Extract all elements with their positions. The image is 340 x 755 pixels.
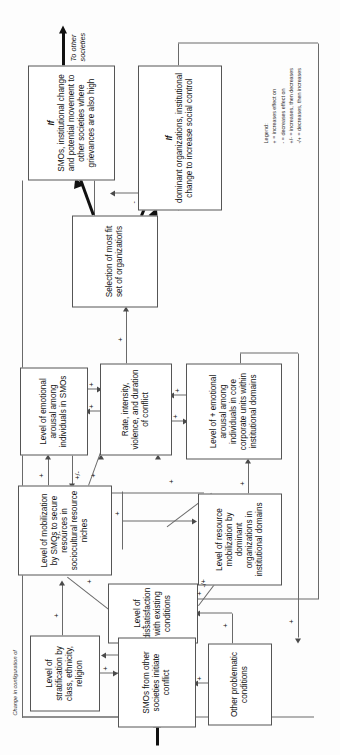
node-label: Level of stratification by class, ethnic… [45,639,85,707]
edge-mobilization-emosmos [48,455,49,485]
sign-plus-minus: +/- [74,471,81,479]
sign-plus: + [102,666,109,670]
change-in-configuration-label: Change in configuration of [12,650,18,715]
node-emotional-arousal-smos[interactable]: Level of emotional arousal among individ… [20,367,88,455]
node-label: SMOs from other societies initiate confl… [142,641,172,723]
node-label: Level of mobilization by SMOs to secure … [40,489,90,571]
edge-dominant-feedback-h1 [178,43,179,65]
node-stratification[interactable]: Level of stratification by class, ethnic… [30,635,100,711]
sign-minus: - [130,201,137,203]
legend-entry: + = increases effect on [270,67,278,143]
node-emotional-arousal-core-units[interactable]: Level of + emotional arousal among indiv… [186,363,282,459]
node-smos-from-other-societies[interactable]: SMOs from other societies initiate confl… [118,637,196,727]
sign-plus: + [172,414,179,418]
edge-otherproblems-dissatisfaction-v [198,612,232,613]
figure-page: + + + + + + -/+ +/- [0,0,340,755]
edge-conflict-selection [126,307,127,363]
edge-dominant-feedback-v [178,42,318,43]
node-prefix: If [47,120,56,125]
sign-plus: + [288,619,295,623]
node-dominant-organizations[interactable]: If dominant organizations, institutional… [138,65,222,210]
node-label: Level of dissatisfaction with existing c… [133,587,173,639]
to-other-societies-label: To other societies [70,15,88,61]
arrowhead-thick [59,25,67,33]
to-other-societies-arrow [62,31,65,65]
node-label: dominant organizations, institutional ch… [175,69,195,206]
node-label: SMOs, institutional change and potential… [57,69,97,176]
config-text: Change in configuration of [12,650,18,715]
node-selection-of-most-fit[interactable]: Selection of most fit set of organizatio… [72,215,158,307]
sign-plus: + [88,382,95,386]
outflow-text: To other societies [69,32,87,61]
sign-plus: + [88,404,95,408]
edge-otherproblems-dissatisfaction-h [232,613,233,643]
sign-plus: + [38,473,45,477]
arrowhead [59,580,65,585]
legend-entry: +/- = increases, then decreases [287,67,295,143]
node-dissatisfaction[interactable]: Level of dissatisfaction with existing c… [108,583,198,643]
sign-plus: + [196,591,203,595]
node-resource-mobilization-dominant[interactable]: Level of resource mobilization by domina… [198,493,282,585]
diagram-board: + + + + + + -/+ +/- [0,0,340,755]
sign-plus: + [168,479,175,483]
sign-plus: + [53,613,60,617]
legend-title: Legend: [262,67,270,143]
edge-emocore-conflict [172,394,186,395]
edge-resourcemob-emocore [248,459,249,493]
sign-minus: - [112,230,119,232]
arrowhead [192,518,197,524]
sign-plus: + [196,676,203,680]
arrowhead [110,190,115,196]
sign-plus-minus: +/- [55,531,62,539]
node-label: Other problematic conditions [230,647,250,721]
edge-emocore-otherproblems-v [240,352,298,353]
edge-dissat-back-v [104,654,118,655]
external-input-arrow [156,725,159,745]
edge-stratification-dissatisfaction [62,583,63,635]
sign-minus-plus: -/+ [200,579,207,587]
legend-entry: - = decreases effect on [279,67,287,143]
sign-plus: + [174,388,181,392]
sign-plus: + [90,473,97,477]
arrowhead [101,652,106,658]
legend-entry: -/+ = decreases, then increases [295,67,303,143]
node-mobilization-by-smos[interactable]: Level of mobilization by SMOs to secure … [18,485,112,575]
sign-plus: + [140,625,147,629]
sign-plus: + [222,623,229,627]
legend: Legend: + = increases effect on - = decr… [262,67,303,143]
edge-mobilization-resourcemob-v [122,520,194,521]
node-other-problematic-conditions[interactable]: Other problematic conditions [208,643,272,725]
edge-dominant-feedback-h2 [318,43,319,599]
sign-plus: + [86,579,93,583]
node-label: Level of + emotional arousal among indiv… [209,367,259,455]
sign-plus: + [114,511,121,515]
edge-emocore-otherproblems-h0 [240,353,241,363]
edge-emosmos-mobilization [72,455,73,485]
node-conflict[interactable]: Rate, intensity, violence, and duration … [100,363,172,455]
node-label: Level of resource mobilization by domina… [215,497,265,581]
node-label: Level of emotional arousal among individ… [39,371,69,451]
node-label: Rate, intensity, violence, and duration … [121,367,151,451]
edge-emocore-otherproblems-h [298,353,299,637]
sign-plus: + [239,481,246,485]
sign-plus: + [117,337,124,341]
node-smos-institutional-change[interactable]: If SMOs, institutional change and potent… [28,65,115,180]
arrowhead [295,638,301,643]
node-prefix: If [165,135,174,140]
